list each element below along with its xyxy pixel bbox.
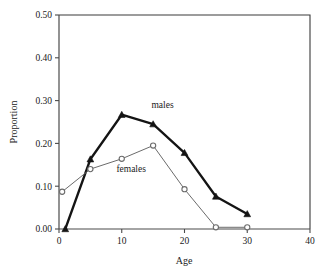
data-point-marker bbox=[182, 187, 187, 192]
x-axis: 010203040 bbox=[57, 229, 315, 246]
series-females bbox=[60, 143, 250, 230]
y-tick-label: 0.30 bbox=[35, 96, 52, 106]
x-tick-label: 30 bbox=[243, 236, 253, 246]
series-label-females: females bbox=[116, 164, 146, 174]
frame-top-right bbox=[59, 15, 310, 229]
x-axis-title: Age bbox=[176, 255, 193, 266]
x-axis-ticks: 010203040 bbox=[57, 229, 315, 246]
data-point-marker bbox=[151, 143, 156, 148]
y-tick-label: 0.10 bbox=[35, 182, 52, 192]
y-tick-label: 0.00 bbox=[35, 224, 52, 234]
chart-figure: 0.000.100.200.300.400.50 010203040 males… bbox=[0, 0, 331, 275]
data-point-marker bbox=[60, 189, 65, 194]
y-axis-ticks: 0.000.100.200.300.400.50 bbox=[35, 10, 59, 234]
y-tick-label: 0.50 bbox=[35, 10, 52, 20]
x-tick-label: 40 bbox=[305, 236, 315, 246]
y-axis-title: Proportion bbox=[8, 101, 19, 144]
y-axis: 0.000.100.200.300.400.50 bbox=[35, 10, 59, 234]
series-line-males bbox=[65, 115, 247, 229]
y-tick-label: 0.40 bbox=[35, 53, 52, 63]
x-tick-label: 10 bbox=[117, 236, 127, 246]
x-tick-label: 0 bbox=[57, 236, 62, 246]
data-point-marker bbox=[119, 156, 124, 161]
data-point-marker bbox=[245, 225, 250, 230]
data-series-layer bbox=[60, 111, 251, 231]
plot-frame bbox=[59, 15, 310, 229]
x-tick-label: 20 bbox=[180, 236, 190, 246]
series-label-males: males bbox=[151, 100, 173, 110]
data-point-marker bbox=[88, 166, 93, 171]
y-tick-label: 0.20 bbox=[35, 139, 52, 149]
data-point-marker bbox=[213, 225, 218, 230]
line-chart: 0.000.100.200.300.400.50 010203040 males… bbox=[0, 0, 331, 275]
